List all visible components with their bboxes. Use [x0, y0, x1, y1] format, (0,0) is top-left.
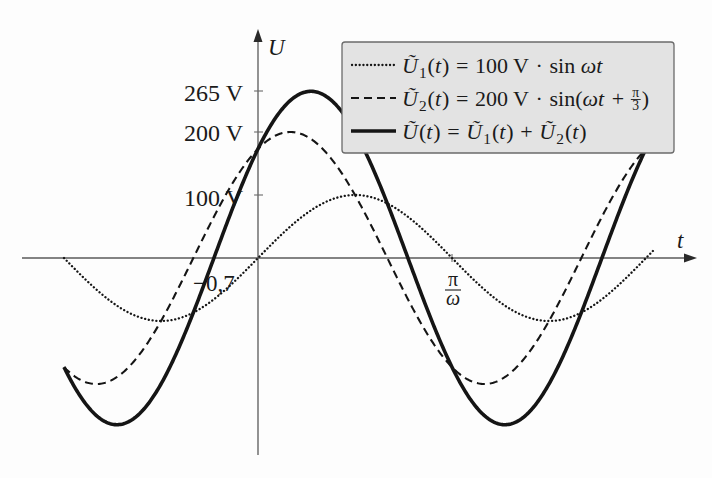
legend-text-run: Ũ [402, 119, 420, 144]
legend-text-run: ) [433, 119, 440, 144]
legend-entry-u1: Ũ1(t)=100 V·sin ωt [402, 53, 603, 81]
legend-text-run: ( [419, 119, 426, 144]
legend-text-run: ) [442, 86, 449, 111]
legend-operator: + [520, 119, 532, 144]
legend-text-run: Ũ [539, 119, 557, 144]
legend-text-run: ωt [583, 86, 606, 111]
legend-subscript: 2 [556, 130, 564, 147]
y-axis-label: U [268, 35, 286, 60]
y-tick-label-265: 265 V [184, 80, 244, 106]
legend-text-run: t [572, 119, 579, 144]
legend-operator: · [536, 53, 543, 78]
legend-text-run: t [435, 86, 442, 111]
legend-text-run: sin [550, 53, 581, 78]
legend-text-run: t [499, 119, 506, 144]
legend-subscript: 1 [419, 64, 427, 81]
legend-operator: = [456, 86, 468, 111]
legend-text-run: ωt [581, 53, 604, 78]
legend-text-run: 200 V [475, 86, 529, 111]
x-tick-denominator: ω [446, 287, 460, 309]
legend-subscript: 2 [419, 97, 427, 114]
x-axis-label: t [677, 228, 684, 253]
legend-text-run: t [435, 53, 442, 78]
legend-operator: + [612, 86, 624, 111]
legend-text-run: ) [506, 119, 513, 144]
legend-subscript: 1 [483, 130, 491, 147]
legend-text-run: Ũ [402, 86, 420, 111]
y-tick-label-200: 200 V [184, 120, 244, 146]
legend-fraction-denominator: 3 [632, 98, 639, 113]
legend-text-run: ) [442, 53, 449, 78]
legend-text-run: Ũ [466, 119, 484, 144]
legend-text-run: ( [428, 86, 435, 111]
legend-text-run: ( [565, 119, 572, 144]
legend-operator: · [536, 86, 543, 111]
legend-text-run: ( [428, 53, 435, 78]
legend: Ũ1(t)=100 V·sin ωt Ũ2(t)=200 V·sin(ωt+π3… [342, 42, 674, 153]
legend-text-run: ) [579, 119, 586, 144]
legend-text-run: ) [642, 86, 649, 111]
legend-text-run: ( [492, 119, 499, 144]
legend-text-run: 100 V [475, 53, 529, 78]
legend-operator: = [456, 53, 468, 78]
legend-text-run: Ũ [402, 53, 420, 78]
legend-text-run: t [426, 119, 433, 144]
legend-entry-u2: Ũ2(t)=200 V·sin(ωt+π3) [402, 85, 649, 114]
sine-superposition-chart: U t 265 V 200 V 100 V −0,7 π ω Ũ1(t)=100… [0, 0, 712, 478]
legend-operator: = [447, 119, 459, 144]
legend-text-run: sin( [550, 86, 583, 111]
